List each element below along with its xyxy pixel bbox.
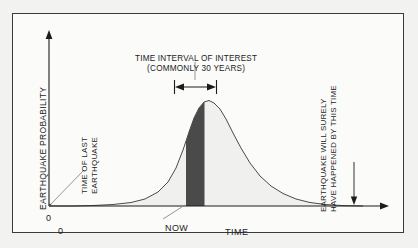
- interval-caption-line-1: TIME INTERVAL OF INTEREST: [135, 54, 257, 64]
- y-axis-zero-tick: 0: [46, 214, 51, 224]
- figure-frame: EARTHQUAKE PROBABILITY 0 0 TIME TIME INT…: [12, 13, 404, 233]
- surely-line-1: EARTHQUAKE WILL SURELY: [319, 85, 329, 212]
- y-axis-arrowhead: [46, 30, 53, 39]
- last-earthquake-point: [49, 204, 52, 207]
- figure-root: EARTHQUAKE PROBABILITY 0 0 TIME TIME INT…: [0, 0, 418, 248]
- interval-of-interest-caption: TIME INTERVAL OF INTEREST (COMMONLY 30 Y…: [135, 54, 257, 74]
- surely-arrowhead: [351, 197, 357, 206]
- now-leader-line: [163, 205, 185, 219]
- interval-arrow-left: [175, 84, 184, 91]
- x-axis-zero-tick: 0: [58, 227, 63, 237]
- earthquake-surely-happened-label: EARTHQUAKE WILL SURELY HAVE HAPPENED BY …: [319, 85, 338, 212]
- interval-of-interest-band: [186, 102, 205, 206]
- interval-arrow-right: [207, 84, 216, 91]
- surely-line-2: HAVE HAPPENED BY THIS TIME: [329, 85, 339, 212]
- now-label: NOW: [165, 224, 188, 234]
- x-axis-title: TIME: [225, 228, 249, 238]
- y-axis-title: EARTHQUAKE PROBABILITY: [39, 87, 49, 210]
- earthquake-probability-plot: [13, 14, 403, 232]
- x-axis-arrowhead: [380, 203, 389, 210]
- last-earthquake-line-2: EARTHQUAKE: [90, 137, 100, 194]
- interval-caption-line-2: (COMMONLY 30 YEARS): [135, 64, 257, 74]
- last-earthquake-line-1: TIME OF LAST: [80, 137, 90, 194]
- time-of-last-earthquake-label: TIME OF LAST EARTHQUAKE: [80, 137, 99, 194]
